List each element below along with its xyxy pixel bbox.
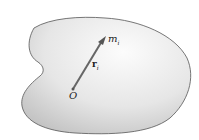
diagram-canvas: mi ri O: [0, 0, 199, 140]
vector-label: ri: [92, 60, 99, 71]
particle-label: mi: [108, 34, 119, 46]
body-shape: [0, 0, 199, 140]
rigid-body-outline: [22, 17, 191, 133]
origin-label: O: [69, 91, 77, 101]
